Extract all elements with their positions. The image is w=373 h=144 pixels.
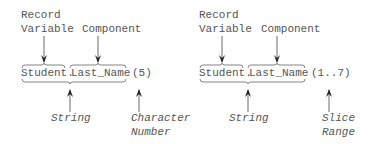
label-component: Component	[82, 23, 141, 35]
label-record-2: Record	[199, 9, 239, 21]
label-variable-2: Variable	[199, 23, 252, 35]
label-slice: Slice	[322, 112, 355, 124]
expr-component: Last_Name	[71, 67, 130, 79]
label-number: Number	[131, 126, 171, 138]
expr-record-2: Student.	[199, 67, 252, 79]
label-string-2: String	[229, 112, 269, 124]
label-component-2: Component	[261, 23, 320, 35]
label-record: Record	[21, 9, 61, 21]
expr-slice: (1..7)	[311, 67, 351, 79]
label-range: Range	[322, 126, 355, 138]
label-character: Character	[131, 112, 190, 124]
expr-index: (5)	[132, 67, 152, 79]
label-variable: Variable	[21, 23, 74, 35]
expr-component-2: Last_Name	[249, 67, 308, 79]
expr-record: Student.	[21, 67, 74, 79]
label-string: String	[51, 112, 91, 124]
